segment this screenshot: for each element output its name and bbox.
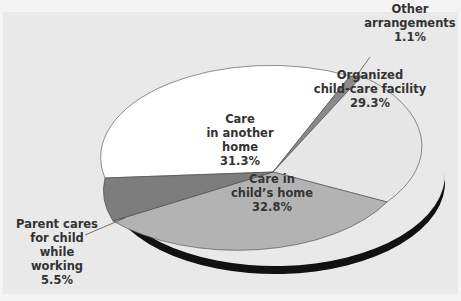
label-value: 5.5% — [12, 273, 102, 287]
label-line: Other — [355, 2, 461, 16]
label-line: child’s home — [217, 186, 327, 200]
label-value: 31.3% — [200, 154, 280, 168]
label-parent-cares: Parent cares for child while working 5.5… — [12, 217, 102, 287]
label-line: home — [200, 140, 280, 154]
label-line: Care — [200, 112, 280, 126]
label-line: while working — [12, 245, 102, 273]
label-care-in-another-home: Care in another home 31.3% — [200, 112, 280, 168]
label-line: for child — [12, 231, 102, 245]
label-line: Care in — [217, 172, 327, 186]
label-other-arrangements: Other arrangements 1.1% — [355, 2, 461, 44]
label-line: in another — [200, 126, 280, 140]
label-value: 29.3% — [300, 96, 440, 110]
label-line: child-care facility — [300, 82, 440, 96]
label-care-in-childs-home: Care in child’s home 32.8% — [217, 172, 327, 214]
label-value: 1.1% — [355, 30, 461, 44]
label-value: 32.8% — [217, 200, 327, 214]
label-line: Organized — [300, 68, 440, 82]
label-line: Parent cares — [12, 217, 102, 231]
label-organized-child-care: Organized child-care facility 29.3% — [300, 68, 440, 110]
label-line: arrangements — [355, 16, 461, 30]
